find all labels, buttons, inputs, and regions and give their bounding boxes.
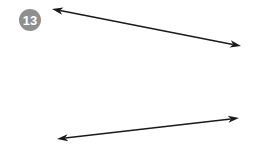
arrow-group-top (52, 8, 241, 48)
bottom-arrow-shaft (65, 119, 231, 138)
diagram-canvas: 13 (0, 0, 261, 146)
diagram-svg: 13 (0, 0, 261, 146)
step-badge: 13 (19, 9, 41, 31)
step-badge-label: 13 (23, 13, 37, 28)
arrow-group-bottom (57, 116, 239, 142)
top-arrow-shaft (60, 11, 233, 45)
